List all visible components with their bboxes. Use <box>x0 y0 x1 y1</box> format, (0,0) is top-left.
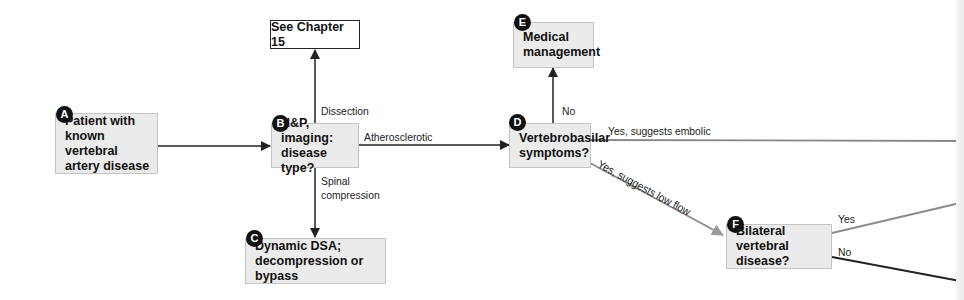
badge-d-icon: D <box>509 114 526 131</box>
node-see-chapter-15: See Chapter 15 <box>270 20 360 49</box>
node-e-line-1: Medical <box>523 30 593 45</box>
node-c-line-1: Dynamic DSA; <box>255 239 385 254</box>
badge-c-icon: C <box>246 230 263 247</box>
badge-b-icon: B <box>272 115 289 132</box>
node-b-line-1: H&P, imaging: <box>281 116 358 146</box>
label-compression: compression <box>321 188 380 202</box>
label-spinal: Spinal <box>321 174 350 188</box>
node-b-line-2: disease type? <box>281 146 358 176</box>
node-a-line-3: artery disease <box>65 159 157 174</box>
node-c: Dynamic DSA; decompression or bypass <box>245 238 386 284</box>
node-a: Patient with known vertebral artery dise… <box>55 113 158 174</box>
node-f: Bilateral vertebral disease? <box>726 224 832 269</box>
node-f-line-1: Bilateral vertebral <box>736 224 831 254</box>
node-c-line-2: decompression or bypass <box>255 254 385 284</box>
label-atherosclerotic: Atherosclerotic <box>364 130 432 144</box>
label-dissection: Dissection <box>321 104 369 118</box>
node-f-line-2: disease? <box>736 254 831 269</box>
node-a-line-2: known vertebral <box>65 129 157 159</box>
node-see-chapter-15-text: See Chapter 15 <box>271 20 359 50</box>
badge-f-icon: F <box>727 216 744 233</box>
label-no-d: No <box>562 104 575 118</box>
badge-e-icon: E <box>514 14 531 31</box>
node-e-line-2: management <box>523 45 593 60</box>
badge-a-icon: A <box>56 106 73 123</box>
node-a-line-1: Patient with <box>65 114 157 129</box>
node-d-line-1: Vertebrobasilar <box>519 131 590 146</box>
label-f-yes: Yes <box>838 212 855 226</box>
label-embolic: Yes, suggests embolic <box>608 124 711 138</box>
page-edge-shadow <box>956 0 964 300</box>
node-d-line-2: symptoms? <box>519 146 590 161</box>
label-f-no: No <box>838 245 851 259</box>
